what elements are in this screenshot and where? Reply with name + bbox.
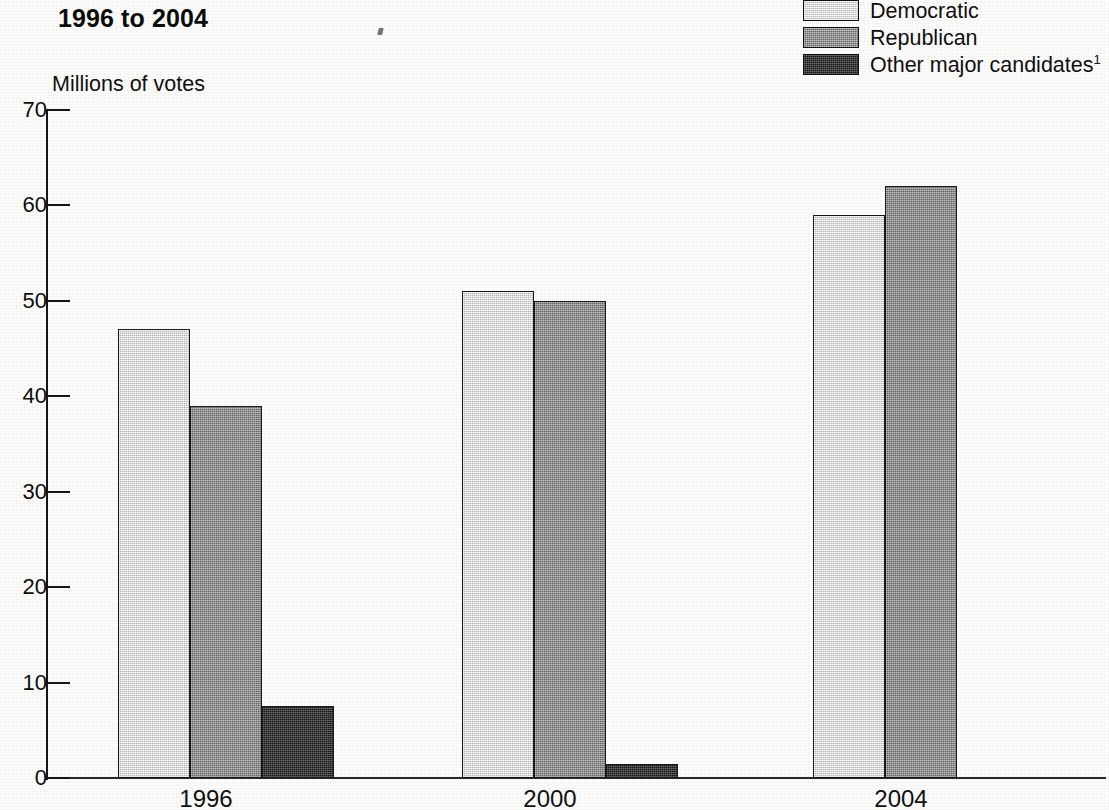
y-axis-tick-label-wrap: 70 [0, 99, 47, 121]
y-axis-tick-label-wrap: 40 [0, 385, 47, 407]
y-axis-tick-label: 50 [7, 290, 47, 312]
y-axis-tick-label-wrap: 30 [0, 481, 47, 503]
y-axis-tick-label: 40 [7, 385, 47, 407]
x-axis-group-label-2004: 2004 [874, 786, 927, 810]
y-axis-tick-label: 10 [7, 672, 47, 694]
bar-other-major-candidates-1996 [262, 706, 334, 778]
y-axis-tick-label-wrap: 10 [0, 672, 47, 694]
y-axis-tick-mark [46, 586, 70, 588]
bar-democratic-2004 [813, 215, 885, 778]
plot-area: 010203040506070199620002004 [0, 0, 1109, 810]
y-axis-tick-mark [46, 395, 70, 397]
y-axis-tick-label: 60 [7, 194, 47, 216]
y-axis-tick-mark [46, 109, 70, 111]
x-axis-group-label-2000: 2000 [523, 786, 576, 810]
y-axis-tick-mark [46, 777, 70, 779]
y-axis-tick-mark [46, 300, 70, 302]
y-axis-tick-label-wrap: 60 [0, 194, 47, 216]
bar-republican-2000 [534, 301, 606, 778]
bar-republican-1996 [190, 406, 262, 778]
y-axis-tick-label: 0 [7, 767, 47, 789]
y-axis-tick-label: 30 [7, 481, 47, 503]
y-axis-tick-label-wrap: 0 [0, 767, 47, 789]
x-axis-group-label-1996: 1996 [179, 786, 232, 810]
y-axis-tick-label-wrap: 50 [0, 290, 47, 312]
bar-republican-2004 [885, 186, 957, 778]
y-axis-tick-mark [46, 491, 70, 493]
bar-other-major-candidates-2000 [606, 764, 678, 778]
bar-democratic-2000 [462, 291, 534, 778]
chart-page: Votes cast for president, by major party… [0, 0, 1109, 810]
y-axis-tick-label-wrap: 20 [0, 576, 47, 598]
bar-democratic-1996 [118, 329, 190, 778]
y-axis-tick-label: 20 [7, 576, 47, 598]
y-axis-tick-label: 70 [7, 99, 47, 121]
y-axis-tick-mark [46, 204, 70, 206]
y-axis-tick-mark [46, 682, 70, 684]
